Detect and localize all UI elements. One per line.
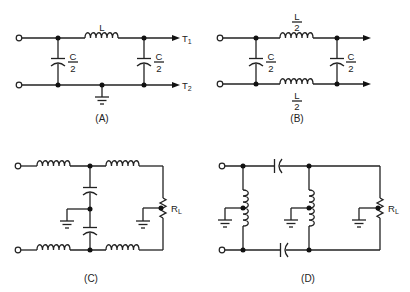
cap-label-den: 2 xyxy=(70,63,75,74)
panel-b-wires xyxy=(223,38,363,84)
terminal-t1-label: T1 xyxy=(182,33,192,45)
inductor-icon xyxy=(280,79,313,84)
junction-dot xyxy=(241,248,246,253)
inductor-icon xyxy=(37,161,70,166)
junction-dot xyxy=(88,207,93,212)
junction-dot xyxy=(56,36,61,41)
tap-dot xyxy=(241,206,246,211)
junction-dot xyxy=(241,164,246,169)
panel-d: RL (D) xyxy=(218,159,399,284)
input-terminal xyxy=(15,163,21,169)
cap-label-den: 2 xyxy=(268,63,273,74)
input-terminal xyxy=(219,247,225,253)
arrow-icon xyxy=(172,35,180,41)
arrow-icon xyxy=(363,35,371,41)
input-terminal xyxy=(217,81,223,87)
junction-dot xyxy=(88,164,93,169)
terminal-t2-label: T2 xyxy=(182,80,192,92)
cap-label-num: C xyxy=(268,51,275,62)
filter-circuits-figure: L C 2 C 2 T1 T2 (A) xyxy=(0,0,410,292)
input-terminal xyxy=(219,163,225,169)
input-terminal xyxy=(16,82,22,88)
cap-label-den: 2 xyxy=(156,63,161,74)
panel-caption: (A) xyxy=(95,113,108,124)
junction-dot xyxy=(254,82,259,87)
junction-dot xyxy=(307,164,312,169)
inductor-label-num: L xyxy=(294,11,299,22)
inductor-icon xyxy=(106,161,139,166)
inductor-label-den: 2 xyxy=(294,101,299,112)
inductor-icon xyxy=(37,245,70,250)
inductor-label-num: L xyxy=(294,90,299,101)
junction-dot xyxy=(142,36,147,41)
panel-caption: (C) xyxy=(84,273,98,284)
wiper-dot xyxy=(376,206,381,211)
junction-dot xyxy=(254,36,259,41)
panel-caption: (B) xyxy=(290,113,303,124)
arrow-icon xyxy=(363,81,371,87)
ground-icon xyxy=(352,220,366,227)
inductor-icon xyxy=(106,245,139,250)
junction-dot xyxy=(142,83,147,88)
junction-dot xyxy=(335,36,340,41)
inductor-label: L xyxy=(99,22,104,33)
input-terminal xyxy=(217,35,223,41)
inductor-icon xyxy=(280,33,313,38)
panel-c: RL (C) xyxy=(15,161,182,284)
wiper-dot xyxy=(159,206,164,211)
panel-b: L 2 L 2 C 2 C 2 (B) xyxy=(217,11,371,124)
junction-dot xyxy=(56,83,61,88)
ground-icon xyxy=(136,221,150,228)
junction-dot xyxy=(335,82,340,87)
cap-label-num: C xyxy=(70,51,77,62)
inductor-icon xyxy=(85,33,118,38)
inductor-label-den: 2 xyxy=(294,22,299,33)
ground-icon xyxy=(284,220,298,227)
cap-label-num: C xyxy=(156,51,163,62)
panel-caption: (D) xyxy=(301,273,315,284)
junction-dot xyxy=(88,248,93,253)
ground-icon xyxy=(95,97,109,104)
cap-label-num: C xyxy=(348,51,355,62)
input-terminal xyxy=(15,247,21,253)
panel-a: L C 2 C 2 T1 T2 (A) xyxy=(16,22,192,124)
cap-label-den: 2 xyxy=(348,63,353,74)
input-terminal xyxy=(16,35,22,41)
junction-dot xyxy=(307,248,312,253)
panel-a-wires xyxy=(22,38,172,97)
ground-icon xyxy=(60,221,74,228)
ground-icon xyxy=(218,220,232,227)
load-resistor-label: RL xyxy=(388,203,399,215)
tap-dot xyxy=(307,206,312,211)
load-resistor-label: RL xyxy=(171,203,182,215)
arrow-icon xyxy=(172,82,180,88)
panel-d-wires xyxy=(225,166,380,250)
junction-dot xyxy=(100,83,105,88)
